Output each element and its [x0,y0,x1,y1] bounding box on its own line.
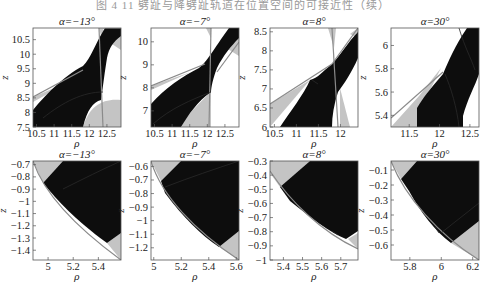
x-tick-label: 11.5 [400,128,418,139]
y-tick-label: −0.6 [369,240,388,251]
y-axis-label: z [116,75,128,81]
subplot-2: α=−7°10.51111.51212.578910ρz [116,15,239,149]
subplot-title: α=−7° [180,148,211,160]
region-map [270,28,358,127]
y-axis-label: z [233,208,245,214]
y-tick-label: 6.5 [254,102,267,113]
y-tick-label: −1.3 [11,233,30,244]
x-tick-label: 12.5 [216,128,234,139]
y-tick-label: 6 [262,122,267,133]
x-tick-label: 6.2 [466,261,479,272]
y-tick-label: 9 [143,59,148,70]
y-tick-label: 7 [143,105,148,116]
y-axis-label: z [235,75,247,81]
y-tick-label: −0.6 [248,198,267,209]
y-tick-label: −0.5 [369,225,388,236]
y-tick-label: 8 [262,45,267,56]
x-tick-label: 5.8 [403,261,416,272]
x-tick-label: 5.7 [334,261,347,272]
x-tick-label: 5.4 [277,261,291,272]
y-axis-label: z [354,208,366,214]
x-tick-label: 12 [335,128,346,139]
subplot-1: α=−13°10.51111.51212.57.588.599.51010.5ρ… [0,15,121,149]
y-tick-label: 7.5 [17,122,30,133]
x-tick-label: 5.6 [315,261,328,272]
region-map [391,161,479,260]
y-tick-label: −0.9 [11,184,30,195]
region-map [270,161,358,249]
x-tick-label: 12 [84,128,95,139]
x-tick-label: 11 [291,128,301,139]
y-tick-label: 5.4 [375,110,389,121]
subplot-title: α=−7° [180,15,211,27]
y-tick-label: −0.8 [248,226,267,237]
x-tick-label: 12 [202,128,213,139]
y-tick-label: 7.5 [254,64,267,75]
y-tick-label: 8.5 [254,26,267,37]
y-tick-label: 9.5 [17,63,30,74]
accessible-region [43,161,121,243]
x-tick-label: 5.5 [296,261,309,272]
subplot-4: α=30°11.51212.55.45.65.86ρz [356,15,479,149]
x-axis-label: ρ [191,270,197,282]
y-tick-label: −0.8 [129,188,148,199]
x-tick-label: 6 [439,261,444,272]
y-tick-label: 9 [25,78,30,89]
region-map [391,28,479,127]
y-tick-label: −1 [256,255,267,266]
x-tick-label: 5.4 [202,261,216,272]
y-axis-label: z [0,75,10,81]
y-tick-label: −1.4 [11,245,31,256]
y-tick-label: 5.6 [375,87,388,98]
y-tick-label: −0.1 [369,165,388,176]
y-tick-label: −1.1 [11,208,30,219]
y-tick-label: −1 [137,215,148,226]
x-axis-label: ρ [73,270,79,282]
y-tick-label: −0.5 [248,184,267,195]
x-tick-label: 10.5 [145,128,163,139]
subplot-title: α=−13° [59,15,96,27]
x-tick-label: 10.5 [27,128,45,139]
y-tick-label: 10.5 [12,34,30,45]
y-tick-label: 8.5 [17,92,30,103]
x-axis-label: ρ [431,270,437,282]
subplot-title: α=8° [302,148,326,160]
y-tick-label: 8 [25,107,30,118]
x-tick-label: 12.5 [461,128,479,139]
subplot-title: α=30° [421,15,450,27]
accessible-region [417,28,479,127]
subplot-7: α=8°5.45.55.65.7−0.3−0.4−0.5−0.6−0.7−0.8… [233,148,358,282]
y-tick-label: −0.9 [129,202,148,213]
partial-region [340,88,350,127]
y-tick-label: 6 [383,40,388,51]
subplot-title: α=30° [421,148,450,160]
x-tick-label: 10.5 [265,128,283,139]
y-tick-label: 5.8 [375,63,388,74]
y-tick-label: −0.9 [248,240,267,251]
x-tick-label: 11 [49,128,59,139]
subplot-8: α=30°5.866.2−0.1−0.2−0.3−0.4−0.5−0.6ρz [354,148,479,282]
y-tick-label: −1.2 [129,242,148,253]
y-tick-label: −0.4 [248,170,268,181]
y-tick-label: −0.3 [369,195,388,206]
y-tick-label: −0.3 [248,156,267,167]
subplot-3: α=8°10.51111.51266.577.588.5ρz [235,15,358,149]
subplot-title: α=8° [302,15,326,27]
x-axis-label: ρ [310,270,316,282]
x-tick-label: 5.4 [92,261,106,272]
x-tick-label: 5.6 [230,261,243,272]
y-tick-label: −0.2 [369,180,388,191]
x-tick-label: 5.2 [175,261,188,272]
subplot-6: α=−7°55.25.45.6−0.6−0.7−0.8−0.9−1−1.1−1.… [114,148,243,282]
subplot-5: α=−13°55.25.4−0.7−0.8−0.9−1−1.1−1.2−1.3−… [0,148,121,282]
y-tick-label: −1 [19,196,30,207]
y-tick-label: 7 [262,83,267,94]
y-tick-label: −0.7 [129,174,148,185]
region-map [33,28,121,127]
x-tick-label: 5 [151,261,156,272]
y-tick-label: 10 [20,49,31,60]
y-tick-label: −0.7 [248,212,267,223]
y-axis-label: z [356,75,368,81]
y-tick-label: −0.7 [11,159,30,170]
y-axis-label: z [114,208,126,214]
